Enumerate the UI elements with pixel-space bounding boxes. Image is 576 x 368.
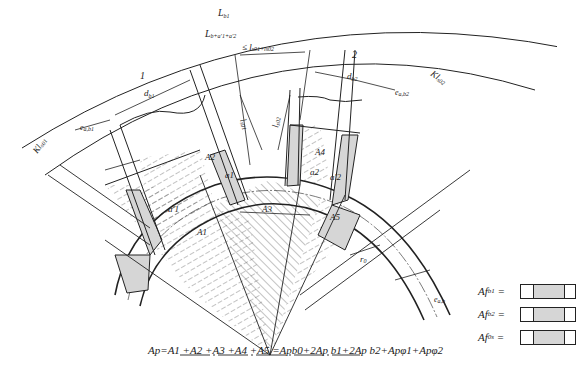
label-r0: r0 — [360, 254, 367, 264]
label-A5: A5 — [329, 212, 340, 222]
label-Lb-sum: Lb+a'1+a'2 — [204, 28, 236, 39]
label-region-2: 2 — [352, 49, 357, 60]
label-a1: a1 — [225, 170, 234, 180]
label-db1: db1 — [144, 88, 155, 99]
legend-swatch-f0s — [520, 330, 576, 345]
legend-swatch-fb2 — [520, 307, 576, 322]
label-a2: a2 — [310, 167, 320, 177]
label-ls02: ls02 — [270, 116, 282, 128]
legend-item-fb1: Afb1 = — [478, 285, 505, 297]
label-Kls01: Kls01 — [30, 136, 48, 156]
label-a1-prime: a'1 — [168, 204, 179, 214]
label-A3: A3 — [261, 204, 272, 214]
label-db2: db2 — [347, 71, 358, 82]
label-A4: A4 — [314, 147, 325, 157]
label-Kls02: Kls02 — [428, 68, 448, 86]
label-A1: A1 — [196, 227, 207, 237]
label-a2-prime: a'2 — [330, 172, 341, 182]
label-eab1: ea,b1 — [80, 123, 94, 132]
label-Lb1: Lb1 — [217, 7, 230, 19]
label-region-1: 1 — [140, 70, 145, 81]
label-A2: A2 — [204, 152, 215, 162]
label-eab2: ea,b2 — [395, 88, 409, 97]
label-l-sum: ≤ ls01+ls02 — [242, 42, 274, 52]
area-formula: Ap=A1 +A2 +A3 +A4 +A5 =Apb0+2Ap b1+2Ap b… — [148, 344, 443, 356]
legend-item-fb2: Afb2 = — [478, 308, 505, 320]
label-ls01: ls01 — [238, 117, 251, 131]
label-eab: ea,b — [434, 295, 445, 304]
legend-item-f0s: Af0s = — [478, 331, 504, 343]
legend-swatch-fb1 — [520, 284, 576, 299]
